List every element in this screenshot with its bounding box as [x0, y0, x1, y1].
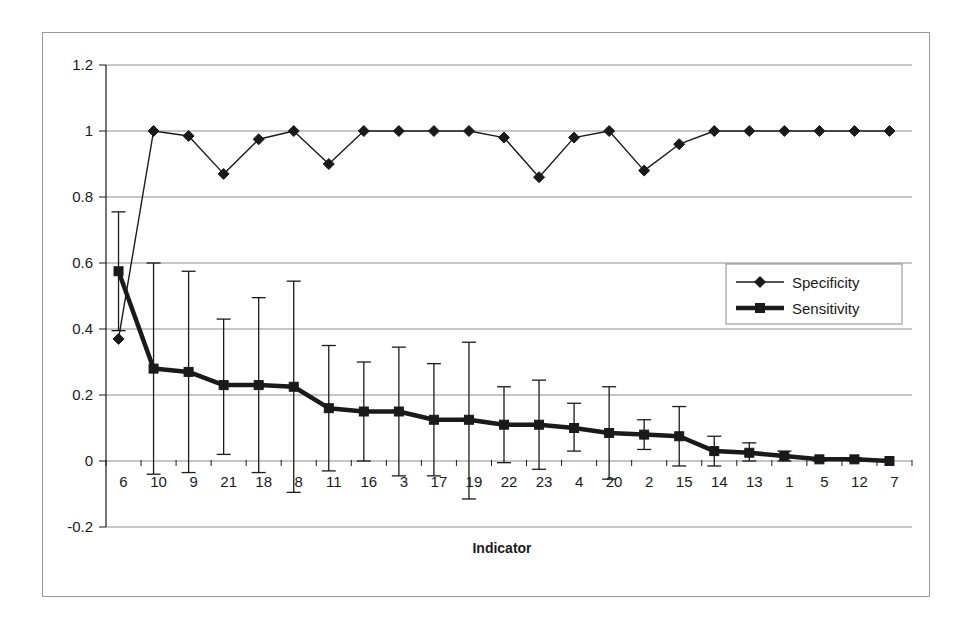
data-point-marker: [393, 126, 404, 137]
data-point-marker: [710, 447, 719, 456]
data-point-marker: [674, 139, 685, 150]
y-tick-label: -0.2: [67, 518, 93, 535]
x-tick-label: 5: [820, 473, 828, 490]
data-point-marker: [815, 455, 824, 464]
x-tick-label: 6: [119, 473, 127, 490]
x-tick-label: 10: [150, 473, 167, 490]
data-point-marker: [756, 304, 765, 313]
data-point-marker: [149, 364, 158, 373]
data-point-marker: [675, 432, 684, 441]
data-point-marker: [709, 126, 720, 137]
data-point-marker: [500, 420, 509, 429]
data-point-marker: [289, 382, 298, 391]
x-tick-label: 9: [189, 473, 197, 490]
y-tick-label: 1: [85, 122, 93, 139]
data-point-marker: [113, 333, 124, 344]
data-point-marker: [428, 126, 439, 137]
x-tick-label: 4: [575, 473, 583, 490]
legend-label: Sensitivity: [792, 300, 860, 317]
data-point-marker: [114, 267, 123, 276]
category-tick-labels: 6109211881116317192223420215141315127: [119, 473, 898, 490]
x-axis-title: Indicator: [472, 540, 532, 556]
x-tick-label: 23: [536, 473, 553, 490]
data-point-marker: [463, 126, 474, 137]
data-point-marker: [745, 448, 754, 457]
data-point-marker: [184, 367, 193, 376]
data-point-marker: [535, 420, 544, 429]
x-tick-label: 22: [501, 473, 518, 490]
x-tick-label: 12: [851, 473, 868, 490]
data-point-marker: [780, 452, 789, 461]
series-sensitivity: [112, 212, 894, 499]
x-tick-label: 19: [466, 473, 483, 490]
chart-figure: 1.210.80.60.40.20-0.2 610921188111631719…: [0, 0, 971, 628]
data-point-marker: [884, 126, 895, 137]
x-tick-label: 21: [220, 473, 237, 490]
data-point-marker: [885, 457, 894, 466]
chart-legend: SpecificitySensitivity: [726, 264, 902, 324]
y-tick-label: 0.2: [72, 386, 93, 403]
data-point-marker: [570, 424, 579, 433]
y-tick-label: 1.2: [72, 56, 93, 73]
data-point-marker: [324, 404, 333, 413]
x-tick-label: 11: [326, 473, 342, 490]
y-tick-label: 0.8: [72, 188, 93, 205]
data-point-marker: [464, 415, 473, 424]
x-tick-label: 20: [606, 473, 623, 490]
data-point-marker: [640, 430, 649, 439]
data-point-marker: [849, 126, 860, 137]
x-tick-label: 1: [785, 473, 793, 490]
y-axis: 1.210.80.60.40.20-0.2: [67, 56, 106, 535]
data-point-marker: [429, 415, 438, 424]
data-point-marker: [394, 407, 403, 416]
data-point-marker: [219, 381, 228, 390]
data-point-marker: [744, 126, 755, 137]
y-tick-label: 0.4: [72, 320, 93, 337]
x-tick-label: 17: [431, 473, 448, 490]
data-point-marker: [850, 455, 859, 464]
data-point-marker: [779, 126, 790, 137]
x-tick-label: 2: [645, 473, 653, 490]
data-point-marker: [814, 126, 825, 137]
x-tick-label: 18: [255, 473, 272, 490]
x-tick-label: 16: [360, 473, 377, 490]
data-point-marker: [148, 126, 159, 137]
x-tick-label: 14: [711, 473, 728, 490]
y-tick-label: 0.6: [72, 254, 93, 271]
x-tick-label: 13: [746, 473, 763, 490]
data-point-marker: [359, 407, 368, 416]
data-point-marker: [605, 428, 614, 437]
x-tick-label: 15: [676, 473, 693, 490]
x-tick-label: 8: [295, 473, 303, 490]
y-tick-label: 0: [85, 452, 93, 469]
data-point-marker: [254, 381, 263, 390]
sensitivity-specificity-line-chart: 1.210.80.60.40.20-0.2 610921188111631719…: [0, 0, 971, 628]
x-tick-label: 7: [890, 473, 898, 490]
legend-label: Specificity: [792, 274, 860, 291]
x-tick-label: 3: [400, 473, 408, 490]
